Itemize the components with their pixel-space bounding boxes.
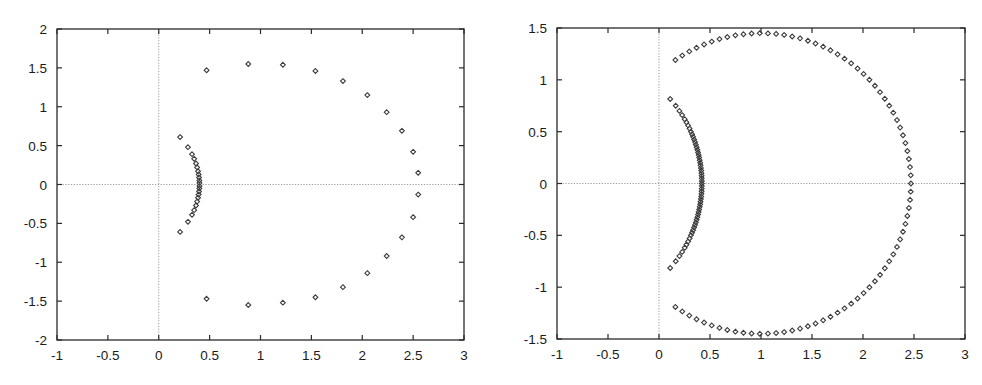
diamond-marker [673, 305, 678, 310]
diamond-marker [891, 252, 896, 257]
diamond-marker [882, 266, 887, 271]
diamond-marker [806, 38, 811, 43]
y-tick-label: 0 [39, 178, 47, 193]
diamond-marker [873, 279, 878, 284]
diamond-marker [178, 135, 183, 140]
diamond-marker [887, 259, 892, 264]
diamond-marker [680, 113, 685, 118]
diamond-marker [365, 93, 370, 98]
diamond-marker [680, 250, 685, 255]
diamond-marker [766, 31, 771, 36]
diamond-marker [790, 34, 795, 39]
diamond-marker [908, 165, 913, 170]
diamond-marker [694, 317, 699, 322]
diamond-marker [895, 118, 900, 123]
diamond-marker [709, 39, 714, 44]
x-tick-label: -1 [51, 348, 63, 363]
diamond-marker [907, 157, 912, 162]
diamond-marker [280, 62, 285, 67]
diamond-marker [905, 149, 910, 154]
diamond-marker [186, 219, 191, 224]
diamond-marker [855, 296, 860, 301]
diamond-marker [416, 192, 421, 197]
y-tick-label: 1.5 [28, 61, 47, 76]
y-tick-labels: 21.510.50-0.5-1-1.5-2 [24, 22, 47, 348]
x-tick-label: 2.5 [905, 347, 924, 362]
x-tick-label: 2.5 [404, 348, 423, 363]
y-tick-label: 1 [39, 100, 47, 115]
y-tick-label: -0.5 [524, 228, 547, 243]
x-tick-label: 1 [757, 347, 765, 362]
diamond-marker [313, 69, 318, 74]
diamond-marker [813, 321, 818, 326]
diamond-marker [717, 326, 722, 331]
diamond-marker [749, 331, 754, 336]
diamond-marker [828, 48, 833, 53]
diamond-marker [341, 285, 346, 290]
zero-axis-lines [557, 28, 965, 339]
y-tick-label: 1 [539, 73, 547, 88]
x-tick-label: -0.5 [96, 348, 119, 363]
diamond-marker [798, 326, 803, 331]
x-tick-label: 1.5 [302, 348, 321, 363]
diamond-marker [821, 44, 826, 49]
y-tick-label: -0.5 [24, 216, 47, 231]
diamond-marker [842, 306, 847, 311]
y-tick-label: -1.5 [524, 332, 547, 347]
zero-axis-lines [57, 29, 464, 340]
y-tick-label: 2 [39, 22, 47, 37]
diamond-marker [798, 36, 803, 41]
diamond-marker [878, 272, 883, 277]
diamond-marker [867, 77, 872, 82]
diamond-marker [246, 62, 251, 67]
diamond-marker [341, 79, 346, 84]
diamond-marker [677, 109, 682, 114]
diamond-marker [190, 152, 195, 157]
diamond-marker [861, 291, 866, 296]
diamond-marker [741, 32, 746, 37]
x-tick-label: 0 [655, 347, 663, 362]
diamond-marker [903, 222, 908, 227]
diamond-marker [828, 314, 833, 319]
x-tick-label: 1 [257, 348, 265, 363]
diamond-marker [766, 331, 771, 336]
diamond-marker [867, 285, 872, 290]
diamond-marker [882, 96, 887, 101]
y-tick-label: -1 [35, 255, 47, 270]
y-tick-label: 0.5 [28, 139, 47, 154]
diamond-marker [749, 31, 754, 36]
diamond-marker [782, 33, 787, 38]
diamond-marker [842, 56, 847, 61]
diamond-marker [400, 128, 405, 133]
y-tick-label: 0.5 [528, 125, 547, 140]
diamond-marker [908, 189, 913, 194]
diamond-marker [835, 310, 840, 315]
y-tick-label: -1 [535, 280, 547, 295]
diamond-marker [774, 331, 779, 336]
diamond-marker [908, 197, 913, 202]
diamond-marker [702, 42, 707, 47]
diamond-marker [313, 295, 318, 300]
diamond-marker [821, 318, 826, 323]
left-scatter-plot: -1-0.500.511.522.53 21.510.50-0.5-1-1.5-… [24, 22, 468, 363]
x-tick-labels: -1-0.500.511.522.53 [51, 348, 468, 363]
diamond-marker [186, 145, 191, 150]
y-tick-label: 0 [539, 177, 547, 192]
diamond-marker [411, 215, 416, 220]
diamond-marker [835, 52, 840, 57]
y-tick-label: -2 [35, 333, 47, 348]
y-tick-labels: 1.510.50-0.5-1-1.5 [524, 21, 547, 347]
x-tick-label: 0 [155, 348, 163, 363]
diamond-marker [813, 41, 818, 46]
diamond-marker [694, 45, 699, 50]
diamond-marker [895, 245, 900, 250]
diamond-marker [901, 133, 906, 138]
diamond-marker [680, 309, 685, 314]
x-tick-label: 1.5 [803, 347, 822, 362]
diamond-marker [384, 254, 389, 259]
diamond-marker [673, 259, 678, 264]
diamond-marker [861, 72, 866, 77]
x-tick-label: 2 [358, 348, 366, 363]
plot-frame [557, 28, 965, 339]
x-tick-label: -1 [551, 347, 563, 362]
